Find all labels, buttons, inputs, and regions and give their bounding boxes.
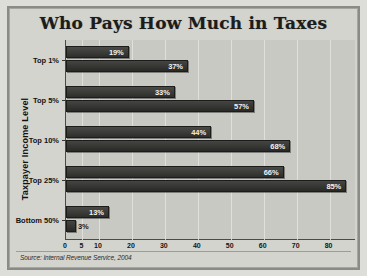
bar: 13% — [66, 206, 109, 218]
bar: 68% — [66, 140, 290, 152]
chart-inner-frame: Who Pays How Much in Taxes Share of inco… — [9, 8, 358, 268]
x-tick-label: 5 — [80, 242, 84, 249]
x-tick-label: 0 — [63, 242, 67, 249]
bar-value-label: 37% — [168, 62, 183, 71]
bar: 37% — [66, 60, 188, 72]
category-label: Top 25% — [29, 176, 59, 185]
bar-value-label: 19% — [109, 48, 124, 57]
bar-value-label: 85% — [326, 182, 341, 191]
bar: 44% — [66, 126, 211, 138]
y-axis-title-text: Taxpayer Income Level — [20, 98, 30, 201]
category-label: Bottom 50% — [16, 216, 59, 225]
chart-title: Who Pays How Much in Taxes — [10, 13, 357, 33]
y-axis-title: Taxpayer Income Level — [18, 69, 32, 229]
bar-value-label: 44% — [191, 128, 206, 137]
category-label: Top 10% — [29, 136, 59, 145]
bar-value-label: 68% — [270, 142, 285, 151]
chart-page: Who Pays How Much in Taxes Share of inco… — [0, 0, 367, 276]
footer-divider — [16, 251, 351, 252]
bar: 3% — [66, 220, 76, 232]
category-label: Top 1% — [33, 56, 59, 65]
x-tick-label: 20 — [127, 242, 135, 249]
bar-value-label: 57% — [234, 102, 249, 111]
chart-frame: Who Pays How Much in Taxes Share of inco… — [7, 6, 360, 270]
x-tick-label: 70 — [292, 242, 300, 249]
x-tick-label: 80 — [325, 242, 333, 249]
source-note: Source: Internal Revenue Service, 2004 — [20, 254, 131, 261]
x-tick-label: 50 — [226, 242, 234, 249]
bar-value-label: 66% — [264, 168, 279, 177]
plot-area: Top 1%19%37%Top 5%33%57%Top 10%44%68%Top… — [65, 40, 355, 240]
x-tick-label: 30 — [160, 242, 168, 249]
bar: 19% — [66, 46, 129, 58]
category-label: Top 5% — [33, 96, 59, 105]
category-group: Top 5%33%57% — [66, 80, 355, 120]
bar-value-label: 13% — [89, 208, 104, 217]
x-tick-label: 10 — [94, 242, 102, 249]
bar: 57% — [66, 100, 254, 112]
category-group: Top 25%66%85% — [66, 160, 355, 200]
x-axis-ticks: 051020304050607080 — [65, 242, 355, 254]
x-tick-label: 60 — [259, 242, 267, 249]
x-tick-label: 40 — [193, 242, 201, 249]
bar-value-label: 3% — [78, 222, 89, 231]
bar: 85% — [66, 180, 346, 192]
bar: 66% — [66, 166, 284, 178]
category-group: Top 10%44%68% — [66, 120, 355, 160]
bar-value-label: 33% — [155, 88, 170, 97]
category-group: Bottom 50%13%3% — [66, 200, 355, 240]
bar: 33% — [66, 86, 175, 98]
category-group: Top 1%19%37% — [66, 40, 355, 80]
plot-inner: Top 1%19%37%Top 5%33%57%Top 10%44%68%Top… — [65, 40, 355, 240]
